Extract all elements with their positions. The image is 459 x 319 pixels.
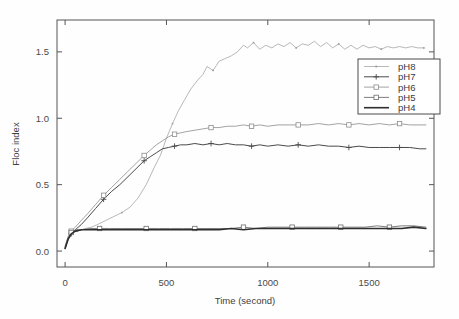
series-marker-ph8 xyxy=(295,47,297,49)
axis-tick-labels: 0500100015000.00.51.01.5 xyxy=(36,46,380,288)
legend-marker-ph5 xyxy=(374,95,378,99)
series-marker-ph8 xyxy=(172,123,174,125)
series-marker-ph8 xyxy=(338,43,340,45)
series-marker-ph8 xyxy=(380,48,382,50)
y-axis-title: Floc index xyxy=(10,122,21,166)
legend-label-ph4: pH4 xyxy=(398,102,415,113)
series-marker-ph6 xyxy=(397,121,401,125)
series-marker-ph6 xyxy=(142,153,146,157)
series-marker-ph6 xyxy=(296,123,300,127)
x-tick-label: 0 xyxy=(62,277,67,288)
series-marker-ph6 xyxy=(172,132,176,136)
series-marker-ph5 xyxy=(241,225,245,229)
x-tick-label: 1500 xyxy=(359,277,380,288)
legend-marker-ph6 xyxy=(374,85,378,89)
series-marker-ph7 xyxy=(346,145,352,151)
series-marker-ph6 xyxy=(209,125,213,129)
series-line-ph4 xyxy=(65,227,426,248)
floc-index-line-chart: 0500100015000.00.51.01.5 Time (second) F… xyxy=(0,0,459,319)
chart-legend: pH8pH7pH6pH5pH4 xyxy=(358,59,440,114)
series-marker-ph7 xyxy=(249,143,255,149)
series-marker-ph6 xyxy=(249,124,253,128)
x-tick-label: 500 xyxy=(159,277,175,288)
chart-figure: 0500100015000.00.51.01.5 Time (second) F… xyxy=(0,0,459,319)
series-marker-ph7 xyxy=(172,143,178,149)
series-marker-ph8 xyxy=(121,212,123,214)
series-marker-ph6 xyxy=(101,193,105,197)
x-axis-title: Time (second) xyxy=(215,295,275,306)
y-tick-label: 0.5 xyxy=(36,179,49,190)
y-tick-label: 0.0 xyxy=(36,246,49,257)
series-line-ph7 xyxy=(65,144,426,249)
series-marker-ph8 xyxy=(253,42,255,44)
series-marker-ph8 xyxy=(212,70,214,72)
series-marker-ph7 xyxy=(397,145,403,151)
y-tick-label: 1.5 xyxy=(36,46,49,57)
series-marker-ph7 xyxy=(295,142,301,148)
series-marker-ph6 xyxy=(347,123,351,127)
series-marker-ph8 xyxy=(423,47,425,49)
x-tick-label: 1000 xyxy=(257,277,278,288)
y-tick-label: 1.0 xyxy=(36,113,49,124)
legend-marker-ph8 xyxy=(375,65,377,67)
series-marker-ph7 xyxy=(208,141,214,147)
